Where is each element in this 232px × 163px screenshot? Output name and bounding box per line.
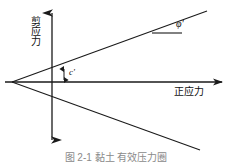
friction-angle-label: φ' bbox=[176, 18, 184, 29]
figure-caption: 图 2-1 黏土 有效压力圈 bbox=[0, 152, 232, 163]
cohesion-label: c' bbox=[69, 67, 75, 77]
lower-failure-envelope-line bbox=[12, 82, 200, 150]
x-axis-label: 正应力 bbox=[174, 86, 204, 97]
y-axis-label: 剪应力 bbox=[26, 16, 40, 46]
figure-container: 剪应力 正应力 φ' c' 图 2-1 黏土 有效压力圈 bbox=[0, 0, 232, 163]
